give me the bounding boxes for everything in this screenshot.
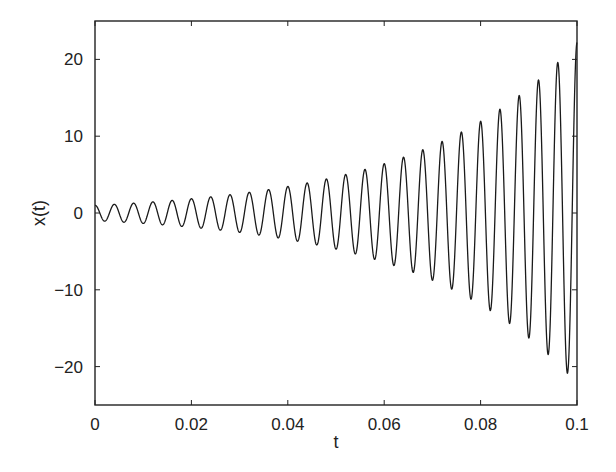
y-tick-label: 20 xyxy=(64,50,83,69)
x-tick-label: 0.04 xyxy=(271,415,304,434)
y-tick-label: −20 xyxy=(54,358,83,377)
x-tick-label: 0.06 xyxy=(368,415,401,434)
x-tick-label: 0.08 xyxy=(464,415,497,434)
y-tick-label: −10 xyxy=(54,281,83,300)
x-tick-label: 0 xyxy=(90,415,99,434)
chart: 00.020.040.060.080.1 −20−1001020 t x(t) xyxy=(0,0,616,472)
y-axis-label: x(t) xyxy=(29,200,49,226)
signal-line xyxy=(95,43,577,374)
x-tick-label: 0.02 xyxy=(175,415,208,434)
x-tick-label: 0.1 xyxy=(565,415,589,434)
y-axis-ticks: −20−1001020 xyxy=(54,50,577,376)
y-tick-label: 0 xyxy=(74,204,83,223)
signal-path xyxy=(95,43,577,374)
x-axis-label: t xyxy=(333,432,338,452)
y-tick-label: 10 xyxy=(64,127,83,146)
